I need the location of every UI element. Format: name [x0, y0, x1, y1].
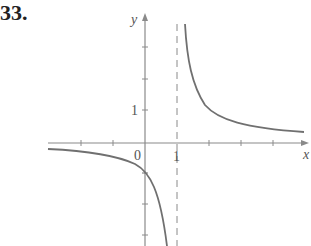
y-axis-label: y: [129, 12, 138, 27]
curve-right-branch: [185, 24, 304, 132]
origin-label: 0: [134, 148, 141, 163]
graph: y x 0 1 1: [0, 0, 311, 246]
y-tick-label-1: 1: [131, 103, 138, 118]
y-axis-arrow-icon: [142, 13, 148, 21]
x-axis-arrow-icon: [301, 140, 309, 146]
x-tick-label-1: 1: [173, 149, 180, 164]
curve-left-branch: [48, 149, 167, 246]
x-axis-label: x: [302, 147, 310, 162]
